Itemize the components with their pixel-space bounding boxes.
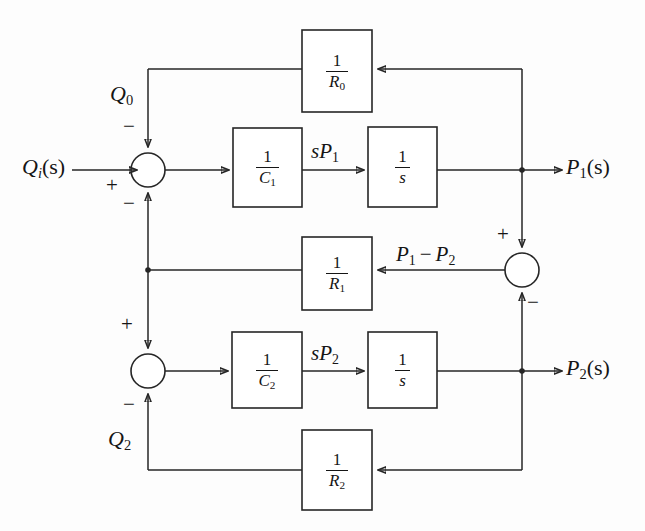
output-p2-sub: 2 [579,366,586,382]
p1-minus-p2-second-sub: 2 [448,253,455,268]
sp2-signal-label: sP2 [311,343,339,364]
input-signal-arg: (s) [42,154,65,179]
sign-sum1-left: + [106,175,118,196]
sign-sum1-top: − [123,116,135,137]
s1-denominator: s [399,168,406,187]
c1-denominator: C [259,168,270,187]
c2-numerator: 1 [256,351,279,370]
output-p1-label: P1(s) [566,156,610,178]
s1-numerator: 1 [395,148,410,167]
sign-sum3-top: + [497,224,509,245]
output-p1-symbol: P [566,154,579,179]
tap-dot-p1 [519,167,525,173]
r0-denominator: R [329,72,339,91]
q2-signal-label: Q2 [108,428,131,450]
block-label-r2: 1 R2 [302,430,372,510]
p1-minus-p2-second: P [436,242,449,266]
block-label-r1: 1 R1 [302,237,372,310]
r2-numerator: 1 [326,451,348,470]
sign-sum2-top: + [121,314,133,335]
block-label-s2: 1 s [368,332,437,408]
sp2-sub: 2 [332,352,339,367]
output-p1-sub: 1 [579,165,586,181]
block-diagram-canvas: 1 R0 1 C1 1 s 1 R1 1 C2 1 s [0,0,645,531]
block-label-c2: 1 C2 [232,332,302,408]
p1-minus-p2-operator: − [416,242,436,266]
sign-sum3-bottom: − [527,292,539,313]
sp1-sub: 1 [332,150,339,165]
output-p2-arg: (s) [587,355,610,380]
q0-signal-label: Q0 [110,83,133,105]
p1-minus-p2-first-sub: 1 [409,253,416,268]
q0-sub: 0 [126,92,133,108]
block-label-c1: 1 C1 [233,128,302,207]
c1-numerator: 1 [256,148,279,167]
sign-sum2-bottom: − [123,394,135,415]
sp2-symbol: sP [311,341,332,365]
output-p2-label: P2(s) [566,357,610,379]
r0-denominator-sub: 0 [339,80,345,92]
q2-sub: 2 [124,437,131,453]
c1-denominator-sub: 1 [270,176,276,188]
r0-numerator: 1 [326,52,348,71]
q0-symbol: Q [110,81,126,106]
summing-junction-3 [505,253,539,287]
input-signal-symbol: Q [22,154,38,179]
c2-denominator-sub: 2 [270,379,276,391]
block-label-s1: 1 s [368,127,437,207]
output-p1-arg: (s) [587,154,610,179]
r1-numerator: 1 [326,254,348,273]
s2-denominator: s [399,371,406,390]
p1-minus-p2-first: P [396,242,409,266]
tap-dot-left-bus [145,267,151,273]
r2-denominator: R [329,471,339,490]
block-label-r0: 1 R0 [302,30,372,112]
sp1-signal-label: sP1 [311,141,339,162]
r1-denominator-sub: 1 [339,282,345,294]
tap-dot-p2 [519,368,525,374]
sp1-symbol: sP [311,139,332,163]
sign-sum1-bottom: − [123,193,135,214]
s2-numerator: 1 [395,351,410,370]
output-p2-symbol: P [566,355,579,380]
r1-denominator: R [329,274,339,293]
q2-symbol: Q [108,426,124,451]
c2-denominator: C [259,371,270,390]
r2-denominator-sub: 2 [339,479,345,491]
input-signal-label: Qi(s) [22,156,65,178]
p1-minus-p2-label: P1−P2 [396,244,455,265]
summing-junction-2 [131,354,165,388]
